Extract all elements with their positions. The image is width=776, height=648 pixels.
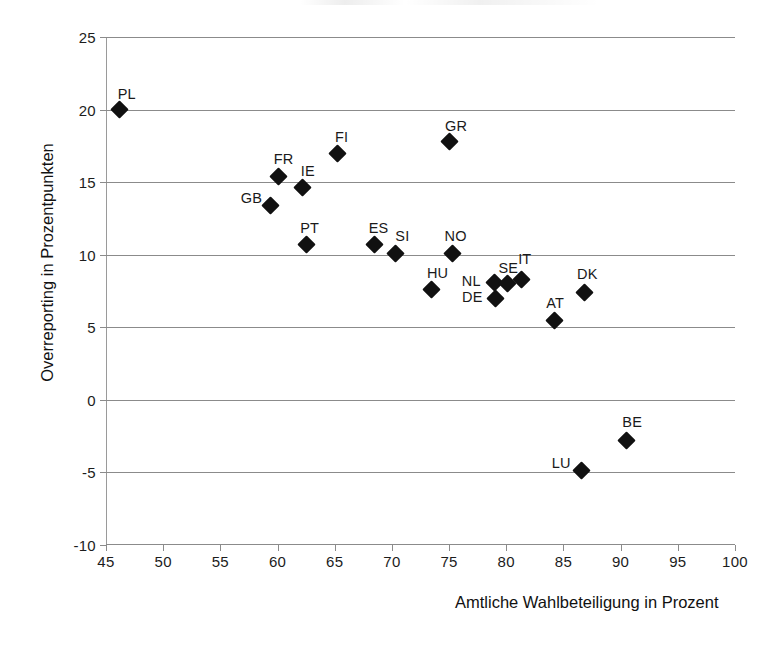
data-point-es[interactable] bbox=[366, 235, 384, 253]
y-tick-10 bbox=[100, 255, 106, 256]
gridline-y-20 bbox=[106, 110, 735, 111]
data-point-label-lu: LU bbox=[552, 455, 571, 471]
x-tick-label-75: 75 bbox=[440, 553, 457, 570]
x-tick-label-80: 80 bbox=[498, 553, 515, 570]
data-point-label-hu: HU bbox=[427, 265, 448, 281]
data-point-label-it: IT bbox=[518, 251, 531, 267]
data-point-gr[interactable] bbox=[440, 132, 458, 150]
data-point-gb[interactable] bbox=[261, 196, 279, 214]
data-point-be[interactable] bbox=[617, 431, 635, 449]
y-tick-label-25: 25 bbox=[79, 29, 96, 46]
data-point-label-be: BE bbox=[622, 414, 642, 430]
data-point-pl[interactable] bbox=[111, 100, 129, 118]
x-tick-label-45: 45 bbox=[97, 553, 114, 570]
data-point-label-gr: GR bbox=[445, 118, 467, 134]
x-tick-60 bbox=[278, 545, 279, 551]
gridline-y-5 bbox=[106, 327, 735, 328]
data-point-label-dk: DK bbox=[577, 266, 598, 282]
y-axis-line bbox=[106, 37, 107, 545]
x-tick-label-85: 85 bbox=[555, 553, 572, 570]
x-tick-label-50: 50 bbox=[155, 553, 172, 570]
y-tick--5 bbox=[100, 472, 106, 473]
y-tick-0 bbox=[100, 400, 106, 401]
x-tick-70 bbox=[392, 545, 393, 551]
y-tick-15 bbox=[100, 182, 106, 183]
data-point-label-ie: IE bbox=[301, 163, 315, 179]
data-point-label-de: DE bbox=[462, 289, 483, 305]
x-tick-100 bbox=[735, 545, 736, 551]
gridline-y--5 bbox=[106, 472, 735, 473]
x-tick-95 bbox=[678, 545, 679, 551]
data-point-hu[interactable] bbox=[423, 280, 441, 298]
data-point-label-si: SI bbox=[395, 228, 409, 244]
x-axis-line bbox=[106, 544, 735, 545]
x-axis-title: Amtliche Wahlbeteiligung in Prozent bbox=[455, 593, 719, 612]
y-axis-tick-labels: 2520151050-5-10 bbox=[52, 37, 96, 545]
data-point-label-se: SE bbox=[498, 260, 518, 276]
gridline-y-10 bbox=[106, 255, 735, 256]
gridline-y-0 bbox=[106, 400, 735, 401]
data-point-label-nl: NL bbox=[462, 273, 481, 289]
x-tick-label-55: 55 bbox=[212, 553, 229, 570]
x-tick-label-60: 60 bbox=[269, 553, 286, 570]
x-tick-65 bbox=[335, 545, 336, 551]
x-tick-label-70: 70 bbox=[383, 553, 400, 570]
data-point-pt[interactable] bbox=[297, 235, 315, 253]
data-point-no[interactable] bbox=[443, 244, 461, 262]
gridline-y-25 bbox=[106, 37, 735, 38]
data-point-label-es: ES bbox=[369, 220, 389, 236]
data-point-dk[interactable] bbox=[575, 283, 593, 301]
y-tick-label--10: -10 bbox=[73, 537, 96, 554]
y-tick-label-5: 5 bbox=[87, 319, 96, 336]
data-point-label-gb: GB bbox=[241, 190, 262, 206]
x-tick-80 bbox=[506, 545, 507, 551]
y-tick-20 bbox=[100, 110, 106, 111]
data-point-fi[interactable] bbox=[328, 144, 346, 162]
data-point-label-at: AT bbox=[546, 295, 564, 311]
data-point-label-pl: PL bbox=[118, 86, 136, 102]
x-tick-45 bbox=[106, 545, 107, 551]
gridline-y-15 bbox=[106, 182, 735, 183]
x-axis-tick-labels: 4550556065707580859095100 bbox=[106, 553, 735, 577]
data-point-label-no: NO bbox=[445, 228, 467, 244]
x-tick-label-95: 95 bbox=[669, 553, 686, 570]
data-point-si[interactable] bbox=[386, 244, 404, 262]
y-tick-label-20: 20 bbox=[79, 101, 96, 118]
x-tick-55 bbox=[220, 545, 221, 551]
x-tick-50 bbox=[163, 545, 164, 551]
x-tick-label-90: 90 bbox=[612, 553, 629, 570]
y-tick-25 bbox=[100, 37, 106, 38]
x-tick-85 bbox=[563, 545, 564, 551]
x-tick-label-65: 65 bbox=[326, 553, 343, 570]
data-point-de[interactable] bbox=[487, 289, 505, 307]
y-tick-label-10: 10 bbox=[79, 246, 96, 263]
x-tick-label-100: 100 bbox=[722, 553, 748, 570]
x-tick-75 bbox=[449, 545, 450, 551]
data-point-label-fr: FR bbox=[274, 151, 294, 167]
y-tick-label--5: -5 bbox=[82, 464, 96, 481]
y-tick-5 bbox=[100, 327, 106, 328]
y-tick-label-15: 15 bbox=[79, 174, 96, 191]
data-point-label-pt: PT bbox=[300, 220, 319, 236]
plot-area: PLFIGRFRIEGBPTESSINOHUNLSEITDEATDKBELU bbox=[106, 37, 735, 545]
x-tick-90 bbox=[621, 545, 622, 551]
scatter-chart-figure: Overreporting in Prozentpunkten Amtliche… bbox=[0, 0, 776, 648]
data-point-lu[interactable] bbox=[573, 462, 591, 480]
y-tick-label-0: 0 bbox=[87, 391, 96, 408]
data-point-label-fi: FI bbox=[335, 129, 348, 145]
